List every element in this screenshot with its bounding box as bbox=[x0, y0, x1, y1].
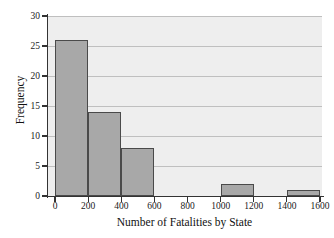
y-axis-title: Frequency bbox=[14, 40, 26, 160]
histogram-chart: 051015202530 020040060080010001200140016… bbox=[0, 0, 334, 238]
y-tick-label: 0 bbox=[14, 191, 40, 201]
y-tick-label: 5 bbox=[14, 161, 40, 171]
y-tick-mark bbox=[42, 105, 47, 106]
y-tick-mark bbox=[42, 195, 47, 196]
bar bbox=[55, 40, 88, 196]
y-tick-label-wrap: 0 bbox=[10, 191, 40, 201]
y-tick-mark bbox=[42, 45, 47, 46]
y-tick-mark bbox=[42, 75, 47, 76]
y-axis-line bbox=[47, 14, 48, 198]
y-tick-label-wrap: 5 bbox=[10, 161, 40, 171]
plot-area bbox=[47, 16, 322, 196]
x-axis-title: Number of Fatalities by State bbox=[47, 216, 322, 228]
y-tick-label-wrap: 30 bbox=[10, 11, 40, 21]
gridline bbox=[47, 106, 322, 107]
y-tick-label: 30 bbox=[14, 11, 40, 21]
y-tick-mark bbox=[42, 15, 47, 16]
y-tick-mark bbox=[42, 165, 47, 166]
bar bbox=[221, 184, 254, 196]
bar bbox=[121, 148, 154, 196]
gridline bbox=[47, 76, 322, 77]
gridline bbox=[47, 46, 322, 47]
gridline bbox=[47, 16, 322, 17]
x-tick-label: 1600 bbox=[300, 201, 334, 212]
bar bbox=[88, 112, 121, 196]
y-tick-mark bbox=[42, 135, 47, 136]
